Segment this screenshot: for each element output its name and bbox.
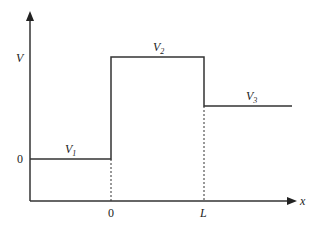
x-axis-label: x [299,194,306,208]
y-axis-arrow-icon [26,11,34,21]
potential-diagram: V x 0 0 L V1 V2 V3 [0,0,324,231]
x-tick-zero: 0 [108,206,114,220]
region-label-v2: V2 [153,40,164,56]
x-tick-L: L [199,206,207,220]
x-axis-arrow-icon [287,197,297,205]
y-tick-zero: 0 [17,152,23,166]
region-label-v3: V3 [246,89,257,105]
y-axis-label: V [16,51,25,65]
region-label-v1: V1 [65,142,76,158]
